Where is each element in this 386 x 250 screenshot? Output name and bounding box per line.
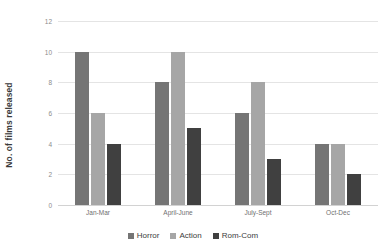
legend-item[interactable]: Rom-Com [213,231,258,240]
chart-canvas: No. of films released 024681012 Jan-MarA… [0,0,386,250]
bar-groups [58,21,378,205]
legend-swatch-icon [213,233,219,239]
bar[interactable] [107,144,121,205]
bar[interactable] [235,113,249,205]
bar-group [298,21,378,205]
y-tick-label: 4 [28,140,52,147]
legend-swatch-icon [128,233,134,239]
y-tick-label: 10 [28,48,52,55]
x-tick-label: Jan-Mar [58,209,138,216]
legend-item[interactable]: Horror [128,231,160,240]
legend-label: Rom-Com [222,231,258,240]
bar[interactable] [251,82,265,205]
bar[interactable] [155,82,169,205]
x-tick-label: Oct-Dec [298,209,378,216]
bar[interactable] [347,174,361,205]
bar-group [138,21,218,205]
y-tick-label: 6 [28,110,52,117]
y-tick-label: 12 [28,18,52,25]
x-tick-label: July-Sept [218,209,298,216]
axis-baseline [58,205,378,206]
bar[interactable] [91,113,105,205]
y-tick-label: 0 [28,202,52,209]
bar[interactable] [315,144,329,205]
chart-title-remnant [0,0,386,7]
legend-label: Horror [137,231,160,240]
y-tick-label: 8 [28,79,52,86]
y-tick-label: 2 [28,171,52,178]
x-axis-category-labels: Jan-MarApril-JuneJuly-SeptOct-Dec [58,209,378,216]
x-tick-label: April-June [138,209,218,216]
bar-group [218,21,298,205]
bar[interactable] [331,144,345,205]
legend-label: Action [179,231,201,240]
y-axis-tick-labels: 024681012 [26,21,52,205]
bar[interactable] [267,159,281,205]
chart-legend: HorrorActionRom-Com [0,231,386,240]
legend-item[interactable]: Action [170,231,201,240]
bar[interactable] [171,52,185,205]
bar[interactable] [187,128,201,205]
bar[interactable] [75,52,89,205]
bar-group [58,21,138,205]
legend-swatch-icon [170,233,176,239]
y-axis-title: No. of films released [0,0,18,250]
